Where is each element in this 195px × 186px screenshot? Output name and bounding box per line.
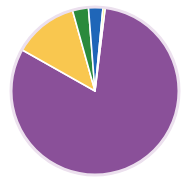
pie-chart-svg: [0, 0, 195, 186]
pie-chart-figure: [0, 0, 195, 186]
pie-slices-group: [5, 1, 185, 181]
